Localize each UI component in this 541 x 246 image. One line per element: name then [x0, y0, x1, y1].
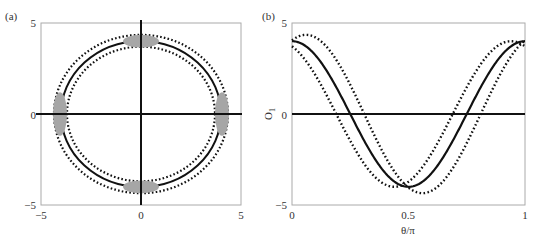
panel-a-xtick-mid: 0 [138, 209, 144, 221]
panel-b-xlabel: θ/π [401, 224, 415, 236]
panel-b-ylabel: O1 [262, 108, 277, 120]
panel-b-ytick-mid: 0 [282, 109, 288, 121]
panel-b-ylabel-main: O [262, 112, 274, 120]
panel-b-xtick-mid: 0.5 [401, 209, 415, 221]
panel-a-label: (a) [5, 10, 18, 23]
panel-b-ytick-top: 5 [282, 17, 288, 29]
panel-b-xtick-left: 0 [289, 209, 295, 221]
panel-b-xtick-right: 1 [522, 209, 528, 221]
panel-a-xtick-left: −5 [35, 209, 47, 221]
panel-a-ytick-mid: 0 [31, 109, 37, 121]
panel-a-xtick-right: 5 [238, 209, 244, 221]
svg-text:O1: O1 [262, 108, 277, 120]
panel-a: (a) 5 0 −5 −5 0 5 [5, 10, 244, 221]
panel-b-ylabel-sub: 1 [268, 108, 277, 112]
panel-b: (b) 5 0 −5 0 0.5 1 θ/π O1 [262, 10, 528, 236]
figure: (a) 5 0 −5 −5 0 5 (b) 5 0 −5 0 0.5 1 θ/π… [0, 0, 541, 246]
panel-b-ytick-bottom: −5 [275, 199, 287, 211]
panel-b-label: (b) [262, 10, 275, 23]
panel-a-ytick-top: 5 [31, 17, 37, 29]
